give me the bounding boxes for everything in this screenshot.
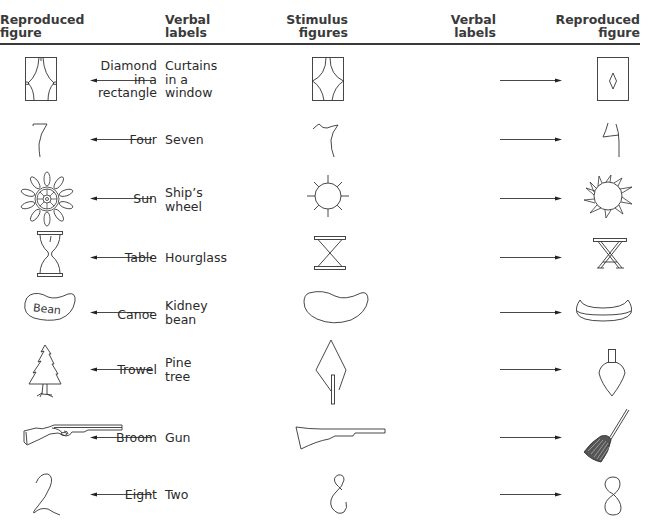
- header-line: labels: [165, 26, 210, 39]
- header-line: figures: [270, 26, 348, 39]
- bean-text: Bean: [32, 301, 61, 317]
- ships-wheel-icon: [20, 172, 74, 226]
- table-icon: [593, 238, 627, 270]
- verbal-label-table: Table: [67, 251, 157, 265]
- label-line: in a: [165, 73, 217, 87]
- label-line: rectangle: [67, 86, 157, 100]
- label-line: Seven: [165, 133, 204, 147]
- label-line: Hourglass: [165, 251, 227, 265]
- label-line: Gun: [165, 431, 191, 445]
- two-icon: [30, 473, 62, 517]
- verbal-label-gun: Gun: [165, 431, 191, 445]
- broom-icon: [583, 408, 629, 464]
- curtains-window-icon: [25, 57, 57, 101]
- header-verbal-labels-right: Verbal labels: [420, 13, 496, 39]
- verbal-label-hourglass: Hourglass: [165, 251, 227, 265]
- sun-icon: [582, 174, 634, 218]
- arrow-right: [500, 433, 562, 442]
- two-eight-icon: [326, 474, 352, 516]
- header-reproduced-figure-left: Reproduced figure: [0, 13, 85, 39]
- label-line: Broom: [67, 431, 157, 445]
- label-line: Two: [165, 488, 188, 502]
- label-line: Table: [67, 251, 157, 265]
- label-line: Canoe: [67, 308, 157, 322]
- arrow-right: [500, 194, 562, 203]
- verbal-label-canoe: Canoe: [67, 308, 157, 322]
- header-line: figure: [0, 26, 85, 39]
- arrow-right: [500, 76, 562, 85]
- arrow-right: [500, 365, 562, 374]
- wheel-sun-icon: [306, 174, 350, 218]
- label-line: Curtains: [165, 59, 217, 73]
- label-line: Diamond: [67, 59, 157, 73]
- seven-four-icon: [312, 122, 342, 158]
- verbal-label-sun: Sun: [67, 192, 157, 206]
- verbal-label-two: Two: [165, 488, 188, 502]
- verbal-label-eight: Eight: [67, 488, 157, 502]
- canoe-icon: [575, 299, 633, 323]
- verbal-label-broom: Broom: [67, 431, 157, 445]
- tree-trowel-icon: [315, 339, 355, 405]
- label-line: Pine: [165, 356, 191, 370]
- verbal-label-seven: Seven: [165, 133, 204, 147]
- hourglass-table-icon: [314, 236, 346, 270]
- arrow-right: [500, 135, 562, 144]
- verbal-label-diamond: Diamond in a rectangle: [67, 59, 157, 100]
- bean-canoe-icon: [303, 291, 369, 325]
- trowel-icon: [598, 349, 628, 397]
- verbal-label-trowel: Trowel: [67, 363, 157, 377]
- curtain-diamond-icon: [312, 57, 344, 101]
- verbal-label-kidney-bean: Kidney bean: [165, 299, 208, 326]
- header-divider: [0, 43, 640, 45]
- label-line: Ship’s: [165, 186, 203, 200]
- header-stimulus-figures: Stimulus figures: [270, 13, 348, 39]
- label-line: wheel: [165, 200, 203, 214]
- arrow-right: [500, 490, 562, 499]
- arrow-right: [500, 253, 562, 262]
- verbal-label-ships-wheel: Ship’s wheel: [165, 186, 203, 213]
- header-verbal-labels-left: Verbal labels: [165, 13, 210, 39]
- arrow-right: [500, 308, 562, 317]
- label-line: in a: [67, 73, 157, 87]
- label-line: Sun: [67, 192, 157, 206]
- header-line: labels: [420, 26, 496, 39]
- label-line: bean: [165, 313, 208, 327]
- pine-tree-icon: [27, 344, 63, 398]
- verbal-label-pine-tree: Pine tree: [165, 356, 191, 383]
- four-icon: [602, 122, 624, 158]
- label-line: Kidney: [165, 299, 208, 313]
- verbal-label-four: Four: [67, 133, 157, 147]
- header-line: figure: [540, 26, 640, 39]
- hourglass-icon: [37, 231, 63, 277]
- eight-icon: [602, 476, 624, 516]
- verbal-label-curtains: Curtains in a window: [165, 59, 217, 100]
- label-line: Four: [67, 133, 157, 147]
- gun-broom-icon: [295, 423, 387, 451]
- label-line: window: [165, 86, 217, 100]
- label-line: Trowel: [67, 363, 157, 377]
- label-line: tree: [165, 370, 191, 384]
- header-reproduced-figure-right: Reproduced figure: [540, 13, 640, 39]
- label-line: Eight: [67, 488, 157, 502]
- seven-icon: [32, 122, 52, 158]
- diamond-rectangle-icon: [597, 57, 629, 101]
